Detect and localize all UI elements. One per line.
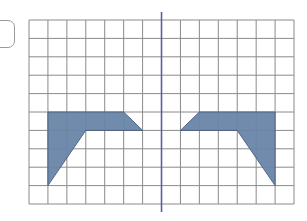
- grid-diagram: [0, 0, 307, 221]
